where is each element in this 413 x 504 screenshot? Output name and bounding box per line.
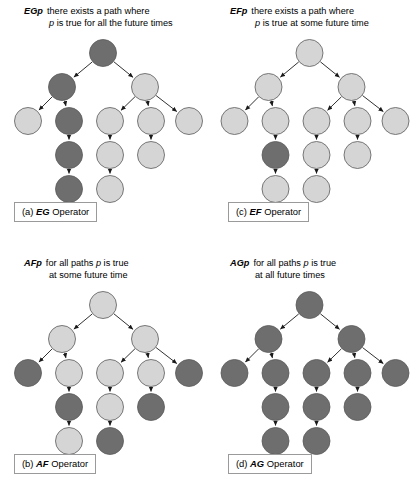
tree-edge: [156, 348, 177, 364]
tree-node-plain: [344, 142, 371, 169]
tree-edge: [280, 314, 298, 329]
panel-af-caption-line2: at some future time: [49, 270, 200, 282]
panel-ag-caption: AGpfor all paths p is true at all future…: [230, 258, 407, 281]
tree-edge: [121, 349, 135, 362]
panel-ag-tree-svg: [206, 290, 413, 462]
tree-edge: [280, 62, 298, 77]
tree-node-satisfying: [382, 360, 409, 387]
tree-node-plain: [138, 142, 165, 169]
tree-edge: [354, 353, 355, 358]
tree-node-plain: [221, 108, 248, 135]
tree-node-satisfying: [262, 142, 289, 169]
tree-edge: [363, 348, 384, 364]
tree-node-satisfying: [56, 176, 83, 203]
panel-eg-label: (a) EG Operator: [14, 202, 97, 222]
panel-ef-caption-line2: p is true at some future time: [255, 18, 407, 30]
panel-ef-tree-svg: [206, 38, 413, 210]
tree-edge: [320, 62, 339, 77]
tree-edge: [271, 353, 272, 358]
panel-af-label: (b) AF Operator: [14, 454, 96, 474]
tree-node-plain: [262, 108, 289, 135]
tree-edge: [328, 349, 342, 362]
tree-node-plain: [90, 292, 117, 319]
tree-node-satisfying: [176, 360, 203, 387]
tree-node-plain: [97, 394, 124, 421]
tree-node-plain: [56, 360, 83, 387]
panel-eg-caption: EGpthere exists a path where p is true f…: [24, 6, 200, 29]
panel-ag-caption-line2: at all future times: [255, 270, 407, 282]
panel-eg-tree-svg: [0, 38, 206, 210]
tree-node-plain: [97, 142, 124, 169]
tree-node-plain: [97, 176, 124, 203]
tree-edge: [65, 353, 66, 358]
tree-edge: [114, 62, 133, 77]
tree-node-plain: [49, 326, 76, 353]
panel-af-tree-svg: [0, 290, 206, 462]
tree-node-plain: [338, 74, 365, 101]
panel-ef-label: (c) EF Operator: [228, 202, 309, 222]
panel-ag-label: (d) AG Operator: [228, 454, 312, 474]
tree-node-plain: [132, 326, 159, 353]
tree-node-satisfying: [262, 428, 289, 455]
panel-ag: AGpfor all paths p is true at all future…: [206, 252, 413, 504]
tree-edge: [245, 349, 258, 362]
tree-edge: [328, 97, 342, 110]
tree-edge: [354, 101, 355, 106]
tree-node-plain: [344, 108, 371, 135]
panel-af-caption: AFpfor all paths p is true at some futur…: [24, 258, 200, 281]
tree-node-satisfying: [303, 428, 330, 455]
tree-edge: [65, 101, 66, 106]
tree-edge: [156, 96, 177, 112]
tree-node-plain: [262, 176, 289, 203]
tree-node-plain: [15, 108, 42, 135]
tree-edge: [74, 62, 92, 77]
tree-node-plain: [97, 360, 124, 387]
tree-node-plain: [303, 176, 330, 203]
tree-node-satisfying: [49, 74, 76, 101]
panel-eg-tree: [0, 38, 206, 210]
tree-edge: [271, 101, 272, 106]
panel-ag-tree: [206, 290, 413, 462]
tree-node-satisfying: [56, 394, 83, 421]
tree-edge: [121, 97, 135, 110]
tree-edge: [39, 349, 52, 362]
panel-eg-caption-line2: p is true for all the future times: [49, 18, 200, 30]
tree-edge: [74, 314, 92, 329]
tree-node-satisfying: [255, 326, 282, 353]
panel-eg-caption-line1: there exists a path where: [47, 6, 150, 16]
tree-node-plain: [303, 108, 330, 135]
tree-node-plain: [296, 40, 323, 67]
tree-node-plain: [56, 428, 83, 455]
panel-ef-tree: [206, 38, 413, 210]
tree-edge: [245, 97, 258, 110]
tree-node-satisfying: [338, 326, 365, 353]
operator-panels-grid: EGpthere exists a path where p is true f…: [0, 0, 413, 504]
tree-node-satisfying: [303, 360, 330, 387]
tree-node-satisfying: [262, 394, 289, 421]
panel-af-operator: AFp: [24, 258, 42, 268]
tree-node-satisfying: [97, 428, 124, 455]
panel-ef-caption-line1: there exists a path where: [251, 6, 354, 16]
tree-node-plain: [176, 108, 203, 135]
tree-node-plain: [97, 108, 124, 135]
tree-node-plain: [303, 142, 330, 169]
tree-edge: [147, 101, 148, 106]
tree-edge: [114, 314, 133, 329]
tree-node-satisfying: [15, 360, 42, 387]
tree-node-satisfying: [296, 292, 323, 319]
panel-ef: EFpthere exists a path where p is true a…: [206, 0, 413, 252]
tree-node-plain: [382, 108, 409, 135]
tree-node-satisfying: [138, 394, 165, 421]
panel-ef-caption: EFpthere exists a path where p is true a…: [230, 6, 407, 29]
tree-edge: [363, 96, 384, 112]
tree-node-plain: [255, 74, 282, 101]
tree-node-satisfying: [262, 360, 289, 387]
tree-node-plain: [138, 108, 165, 135]
panel-af: AFpfor all paths p is true at some futur…: [0, 252, 206, 504]
tree-node-plain: [132, 74, 159, 101]
panel-eg: EGpthere exists a path where p is true f…: [0, 0, 206, 252]
panel-af-tree: [0, 290, 206, 462]
tree-node-satisfying: [303, 394, 330, 421]
tree-node-satisfying: [344, 360, 371, 387]
tree-node-satisfying: [56, 142, 83, 169]
